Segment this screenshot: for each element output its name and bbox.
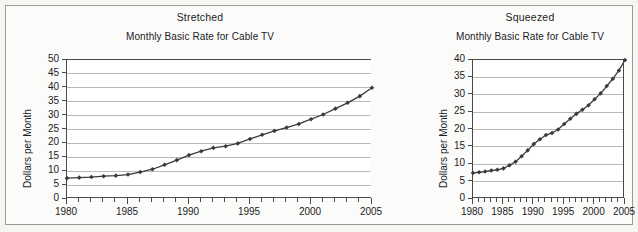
data-point-marker (126, 172, 131, 177)
panel-squeezed: Squeezed Monthly Basic Rate for Cable TV… (426, 6, 634, 226)
x-minor-tick (334, 198, 335, 202)
series-line-squeezed (473, 60, 625, 199)
x-major-tick (563, 198, 564, 204)
data-point-marker (260, 132, 265, 137)
y-tick-label-15: 15 (445, 141, 465, 151)
x-minor-tick (490, 198, 491, 202)
data-point-marker (272, 129, 277, 134)
y-tick-label-0: 0 (39, 193, 59, 203)
x-minor-tick (322, 198, 323, 202)
x-minor-tick (236, 198, 237, 202)
figure-root: Stretched Monthly Basic Rate for Cable T… (0, 0, 638, 232)
y-tick-mark (468, 145, 472, 146)
y-axis-label-stretched: Dollars per Month (22, 109, 33, 188)
y-tick-label-45: 45 (39, 68, 59, 78)
x-minor-tick (212, 198, 213, 202)
x-minor-tick (114, 198, 115, 202)
x-major-tick (249, 198, 250, 204)
x-minor-tick (484, 198, 485, 202)
plot-canvas-stretched (66, 59, 371, 198)
x-minor-tick (544, 198, 545, 202)
data-point-marker (114, 173, 119, 178)
chart-title-stretched: Monthly Basic Rate for Cable TV (6, 31, 394, 42)
y-tick-label-20: 20 (445, 124, 465, 134)
plot-area-squeezed: 0510152025303540198019851990199520002005 (472, 59, 624, 198)
y-tick-mark (468, 59, 472, 60)
x-tick-label-2000: 2000 (290, 206, 330, 217)
x-minor-tick (520, 198, 521, 202)
y-tick-label-40: 40 (445, 54, 465, 64)
data-point-marker (284, 125, 289, 130)
data-point-marker (77, 175, 82, 180)
y-tick-mark (62, 59, 66, 60)
x-minor-tick (200, 198, 201, 202)
x-minor-tick (575, 198, 576, 202)
data-point-marker (162, 163, 167, 168)
y-tick-mark (62, 114, 66, 115)
y-tick-label-15: 15 (39, 151, 59, 161)
y-tick-mark (468, 111, 472, 112)
data-point-marker (489, 168, 494, 173)
y-tick-label-30: 30 (39, 110, 59, 120)
x-minor-tick (569, 198, 570, 202)
data-point-marker (187, 153, 192, 158)
x-minor-tick (557, 198, 558, 202)
x-minor-tick (261, 198, 262, 202)
data-point-marker (477, 170, 482, 175)
data-point-marker (211, 146, 216, 151)
y-tick-label-0: 0 (445, 193, 465, 203)
y-tick-label-20: 20 (39, 137, 59, 147)
data-point-marker (309, 117, 314, 122)
y-tick-mark (468, 180, 472, 181)
x-minor-tick (611, 198, 612, 202)
y-tick-label-5: 5 (445, 176, 465, 186)
panel-heading-stretched: Stretched (6, 11, 394, 23)
x-major-tick (532, 198, 533, 204)
y-tick-label-25: 25 (445, 106, 465, 116)
y-tick-mark (468, 163, 472, 164)
data-point-marker (483, 169, 488, 174)
y-tick-label-35: 35 (39, 96, 59, 106)
x-minor-tick (358, 198, 359, 202)
x-tick-label-1990: 1990 (168, 206, 208, 217)
x-minor-tick (551, 198, 552, 202)
x-minor-tick (605, 198, 606, 202)
y-tick-label-10: 10 (445, 158, 465, 168)
panel-stretched: Stretched Monthly Basic Rate for Cable T… (6, 6, 394, 226)
x-major-tick (188, 198, 189, 204)
plot-canvas-squeezed (472, 59, 624, 198)
y-tick-label-40: 40 (39, 82, 59, 92)
x-major-tick (472, 198, 473, 204)
x-minor-tick (102, 198, 103, 202)
data-point-marker (501, 166, 506, 171)
y-tick-mark (62, 184, 66, 185)
data-point-marker (236, 141, 241, 146)
y-tick-mark (468, 93, 472, 94)
x-minor-tick (224, 198, 225, 202)
y-tick-label-10: 10 (39, 165, 59, 175)
series-line-stretched (67, 60, 372, 199)
x-minor-tick (587, 198, 588, 202)
data-point-marker (223, 144, 228, 149)
y-tick-mark (62, 156, 66, 157)
data-point-marker (297, 122, 302, 127)
x-minor-tick (514, 198, 515, 202)
data-point-marker (101, 174, 106, 179)
y-tick-mark (468, 128, 472, 129)
data-point-marker (138, 170, 143, 175)
x-major-tick (66, 198, 67, 204)
x-minor-tick (285, 198, 286, 202)
y-tick-mark (62, 128, 66, 129)
x-minor-tick (617, 198, 618, 202)
figure-frame: Stretched Monthly Basic Rate for Cable T… (5, 5, 633, 225)
y-tick-label-50: 50 (39, 54, 59, 64)
x-major-tick (502, 198, 503, 204)
data-point-marker (150, 167, 155, 172)
y-tick-label-30: 30 (445, 89, 465, 99)
x-minor-tick (599, 198, 600, 202)
data-point-marker (89, 175, 94, 180)
y-tick-mark (62, 142, 66, 143)
x-major-tick (593, 198, 594, 204)
x-minor-tick (346, 198, 347, 202)
y-tick-mark (62, 86, 66, 87)
